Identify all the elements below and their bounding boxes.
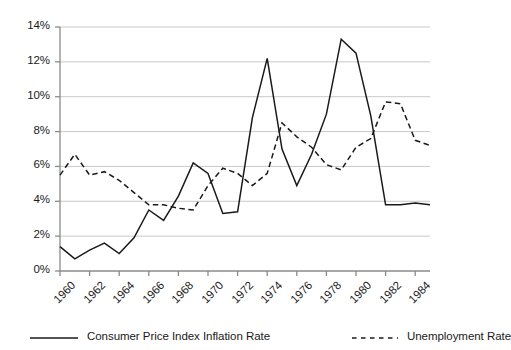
x-tick-marks-group — [60, 271, 415, 276]
y-tick-label: 10% — [0, 89, 50, 101]
series-line-1 — [60, 102, 430, 210]
y-tick-marks-group — [55, 27, 60, 271]
series-line-0 — [60, 39, 430, 259]
legend-label: Consumer Price Index Inflation Rate — [87, 330, 270, 342]
y-tick-label: 0% — [0, 263, 50, 275]
y-tick-label: 14% — [0, 19, 50, 31]
gridlines-group — [60, 27, 430, 236]
y-tick-label: 8% — [0, 124, 50, 136]
y-tick-label: 12% — [0, 54, 50, 66]
y-tick-label: 4% — [0, 193, 50, 205]
axes-group — [60, 27, 430, 271]
legend-label: Unemployment Rate — [407, 330, 511, 342]
y-tick-label: 2% — [0, 228, 50, 240]
y-tick-label: 6% — [0, 158, 50, 170]
data-series-group — [60, 39, 430, 259]
